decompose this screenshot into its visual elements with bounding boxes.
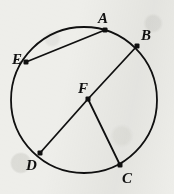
point-label-d: D <box>26 158 37 173</box>
chord-e-a <box>26 30 105 62</box>
point-marker-a <box>103 28 108 33</box>
segments-layer <box>26 30 137 165</box>
circle-layer <box>11 27 157 173</box>
point-label-e: E <box>12 52 22 67</box>
circle-diagram-figure: ABCDEF <box>0 0 174 194</box>
point-marker-d <box>38 151 43 156</box>
radius-f-c <box>88 99 120 165</box>
radius-f-b <box>88 46 137 99</box>
point-label-f: F <box>78 81 88 96</box>
point-label-b: B <box>141 28 151 43</box>
point-marker-b <box>135 44 140 49</box>
point-marker-c <box>118 163 123 168</box>
main-circle <box>11 27 157 173</box>
point-marker-e <box>24 60 29 65</box>
point-label-c: C <box>122 171 132 186</box>
point-label-a: A <box>98 11 108 26</box>
point-marker-f <box>86 97 91 102</box>
points-layer <box>24 28 140 168</box>
radius-d-f <box>40 99 88 153</box>
